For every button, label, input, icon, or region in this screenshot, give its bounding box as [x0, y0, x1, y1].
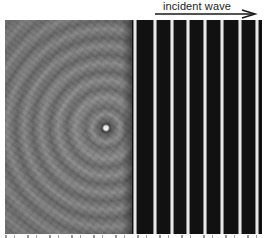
- wave-stripe: [203, 20, 207, 234]
- wave-stripe: [220, 20, 224, 234]
- wave-stripe: [238, 20, 242, 234]
- grain-texture: [5, 20, 132, 234]
- wave-figure: [5, 20, 262, 234]
- plane-wave-region: [132, 20, 262, 234]
- right-arrow-icon: [150, 9, 262, 19]
- wave-stripe: [170, 20, 174, 234]
- cropped-caption-fragment: [5, 235, 264, 238]
- wave-stripe: [255, 20, 259, 234]
- wave-stripe: [186, 20, 190, 234]
- boundary-shadow: [122, 20, 132, 234]
- wave-stripe: [133, 20, 137, 234]
- wave-stripe: [153, 20, 157, 234]
